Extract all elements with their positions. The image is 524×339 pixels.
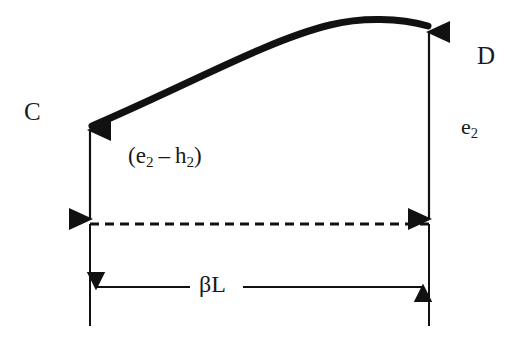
diagram-canvas: C D e2 (e2–h2) βL — [0, 0, 524, 339]
dimension-label-e2: e2 — [461, 116, 478, 138]
expression-term1-base: e — [136, 143, 146, 168]
span-dimension-label: βL — [199, 272, 226, 296]
dimension-label-e2-minus-h2: (e2–h2) — [128, 144, 202, 167]
node-label-d: D — [477, 43, 495, 68]
expression-open-paren: ( — [128, 143, 136, 168]
deflection-curve — [92, 19, 428, 126]
expression-operator: – — [153, 143, 175, 168]
expression-term1-subscript: 2 — [146, 153, 154, 170]
dimension-label-e2-base: e — [461, 114, 471, 139]
expression-term2-subscript: 2 — [186, 153, 194, 170]
expression-close-paren: ) — [194, 143, 202, 168]
node-label-c: C — [24, 99, 41, 124]
diagram-vector-layer — [0, 0, 524, 339]
dimension-label-e2-subscript: 2 — [471, 125, 478, 141]
expression-term2-base: h — [175, 143, 187, 168]
